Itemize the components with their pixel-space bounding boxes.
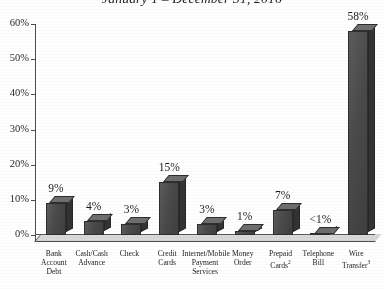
bar-value-label: 1% bbox=[237, 210, 252, 222]
y-axis-tick-label: 50% bbox=[10, 52, 29, 63]
bar[interactable] bbox=[310, 234, 330, 235]
bar-top-face bbox=[238, 224, 264, 231]
bar-series: 9%4%3%15%3%1%7%<1%58% bbox=[35, 24, 375, 235]
y-axis-tick-mark bbox=[31, 235, 35, 236]
bar[interactable] bbox=[235, 231, 255, 235]
category-label-line: Wire bbox=[333, 249, 379, 258]
y-axis-tick-label: 40% bbox=[10, 87, 29, 98]
y-axis-tick-label: 60% bbox=[10, 17, 29, 28]
bar[interactable] bbox=[159, 182, 179, 235]
bar-value-label: 3% bbox=[199, 203, 214, 215]
bar-value-label: 9% bbox=[48, 182, 63, 194]
bar-slot: <1% bbox=[310, 24, 330, 235]
y-axis-tick-label: 0% bbox=[15, 228, 29, 239]
bar-slot: 15% bbox=[159, 24, 179, 235]
footnote-marker: 2 bbox=[288, 259, 291, 265]
bar-front-face bbox=[348, 31, 368, 235]
bar-slot: 1% bbox=[235, 24, 255, 235]
bar-front-face bbox=[121, 224, 141, 235]
y-axis-tick-label: 10% bbox=[10, 193, 29, 204]
bar-slot: 58% bbox=[348, 24, 368, 235]
bar-value-label: 4% bbox=[86, 200, 101, 212]
bar-front-face bbox=[84, 221, 104, 235]
bar-value-label: 15% bbox=[159, 161, 180, 173]
chart-title: January 1 – December 31, 2016 bbox=[0, 0, 384, 6]
bar[interactable] bbox=[273, 210, 293, 235]
bar-slot: 3% bbox=[121, 24, 141, 235]
bar-value-label: 58% bbox=[348, 10, 369, 22]
plot-area: 0%10%20%30%40%50%60% 9%4%3%15%3%1%7%<1%5… bbox=[35, 24, 375, 242]
bar[interactable] bbox=[121, 224, 141, 235]
bar-value-label: 7% bbox=[275, 189, 290, 201]
category-label-line: Transfer3 bbox=[333, 258, 379, 270]
category-label-line: Debt bbox=[31, 267, 77, 276]
bar-slot: 4% bbox=[84, 24, 104, 235]
bar[interactable] bbox=[46, 203, 66, 235]
bar-value-label: <1% bbox=[309, 213, 331, 225]
floor-depth-face bbox=[35, 234, 382, 242]
x-axis-category-label: WireTransfer3 bbox=[333, 249, 379, 270]
bar-side-face bbox=[368, 24, 375, 232]
chart-title-block: January 1 – December 31, 2016 bbox=[0, 0, 384, 6]
bar-front-face bbox=[46, 203, 66, 235]
bar-side-face bbox=[179, 175, 186, 231]
bar[interactable] bbox=[348, 31, 368, 235]
category-label-line: Advance bbox=[69, 258, 115, 267]
bar-value-label: 3% bbox=[124, 203, 139, 215]
bar[interactable] bbox=[84, 221, 104, 235]
category-label-line: Services bbox=[182, 267, 228, 276]
x-axis-category-labels: BankAccountDebtCash/CashAdvanceCheckCred… bbox=[35, 249, 383, 289]
bar-front-face bbox=[273, 210, 293, 235]
y-axis-tick-label: 20% bbox=[10, 158, 29, 169]
footnote-marker: 3 bbox=[367, 259, 370, 265]
bar[interactable] bbox=[197, 224, 217, 235]
bar-front-face bbox=[235, 231, 255, 235]
bar-slot: 3% bbox=[197, 24, 217, 235]
y-axis-tick-label: 30% bbox=[10, 123, 29, 134]
bar-top-face bbox=[314, 227, 340, 234]
bar-front-face bbox=[159, 182, 179, 235]
bar-front-face bbox=[197, 224, 217, 235]
bar-slot: 9% bbox=[46, 24, 66, 235]
bar-slot: 7% bbox=[273, 24, 293, 235]
